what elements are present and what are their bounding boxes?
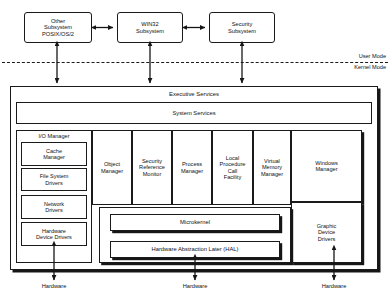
system-services-label: System Services: [172, 110, 215, 116]
executive-component-lpc-facility: Local Procedure Call Facility: [212, 130, 253, 205]
windows-manager-label: Windows Manager: [315, 160, 338, 173]
hal-label: Hardware Abstraction Later (HAL): [152, 246, 239, 252]
executive-component-virtual-memory-manager: Virtual Memory Manager: [253, 130, 291, 205]
graphic-device-drivers-box: Graphic Device Drivers: [291, 202, 362, 263]
executive-component-process-manager: Process Manager: [172, 130, 212, 205]
io-child-label-hardware-device-drivers: Hardware Device Drivers: [36, 228, 72, 241]
hardware-label-center: Hardware: [163, 283, 227, 289]
io-manager-title: I/O Manager: [17, 133, 91, 139]
executive-component-label-process-manager: Process Manager: [181, 161, 203, 174]
io-child-label-cache-manager: Cache Manager: [43, 148, 65, 161]
subsystem-box-other: Other Subsystem POSIX/OS/2: [24, 12, 92, 43]
io-child-label-network-drivers: Network Drivers: [44, 201, 64, 214]
microkernel-label: Microkernel: [180, 219, 210, 225]
windows-nt-architecture-diagram: Other Subsystem POSIX/OS/2 WIN32 Subsyst…: [0, 0, 390, 294]
io-child-file-system-drivers: File System Drivers: [21, 168, 87, 191]
executive-component-label-virtual-memory-manager: Virtual Memory Manager: [261, 158, 283, 177]
executive-component-label-object-manager: Object Manager: [101, 161, 123, 174]
executive-component-object-manager: Object Manager: [92, 130, 132, 205]
subsystem-label-security: Security Subsystem: [228, 21, 256, 34]
subsystem-label-other: Other Subsystem POSIX/OS/2: [42, 18, 74, 37]
executive-component-label-lpc-facility: Local Procedure Call Facility: [220, 155, 246, 181]
subsystem-box-win32: WIN32 Subsystem: [117, 12, 183, 43]
microkernel-box: Microkernel: [110, 214, 280, 231]
kernel-mode-label: Kernel Mode: [316, 64, 386, 70]
io-child-hardware-device-drivers: Hardware Device Drivers: [21, 222, 87, 246]
io-child-cache-manager: Cache Manager: [21, 142, 87, 166]
hardware-label-left: Hardware: [22, 283, 86, 289]
executive-component-security-reference-monitor: Security Reference Monitor: [132, 130, 172, 205]
system-services-box: System Services: [16, 102, 372, 124]
executive-services-label: Executive Services: [10, 91, 378, 97]
windows-manager-box: Windows Manager: [291, 130, 362, 202]
subsystem-box-security: Security Subsystem: [209, 12, 275, 43]
hal-box: Hardware Abstraction Later (HAL): [110, 241, 280, 258]
io-child-network-drivers: Network Drivers: [21, 195, 87, 219]
subsystem-label-win32: WIN32 Subsystem: [136, 21, 164, 34]
hardware-label-right: Hardware: [302, 283, 366, 289]
executive-component-label-security-reference-monitor: Security Reference Monitor: [139, 158, 165, 177]
graphic-device-drivers-label: Graphic Device Drivers: [317, 223, 337, 242]
user-kernel-mode-divider: [2, 62, 388, 63]
user-mode-label: User Mode: [316, 53, 386, 59]
io-child-label-file-system-drivers: File System Drivers: [40, 173, 69, 186]
